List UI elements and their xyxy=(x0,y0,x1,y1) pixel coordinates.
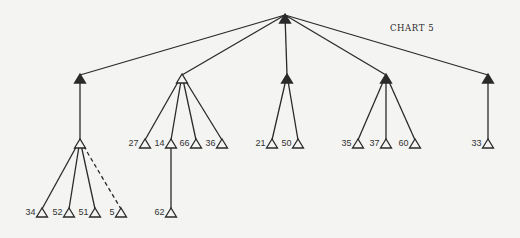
tree-edge xyxy=(182,75,196,140)
open-triangle-node-icon xyxy=(483,139,494,148)
filled-triangle-node-icon xyxy=(282,74,293,83)
filled-triangle-node-icon xyxy=(483,74,494,83)
tree-diagram: CHART 5 34525152714663662215035376033 xyxy=(0,0,520,238)
node-label: 33 xyxy=(462,138,482,148)
tree-edge xyxy=(285,15,386,75)
filled-triangle-node-icon xyxy=(381,74,392,83)
tree-graph xyxy=(0,0,520,238)
node-label: 21 xyxy=(246,138,266,148)
open-triangle-node-icon xyxy=(75,139,86,148)
chart-title: CHART 5 xyxy=(390,23,434,33)
tree-edge xyxy=(358,75,386,140)
tree-edge xyxy=(386,75,415,140)
filled-triangle-node-icon xyxy=(280,14,291,23)
node-label: 34 xyxy=(16,207,36,217)
node-label: 66 xyxy=(170,138,190,148)
node-label: 52 xyxy=(43,207,63,217)
node-label: 37 xyxy=(360,138,380,148)
tree-edge xyxy=(287,75,298,140)
open-triangle-node-icon xyxy=(217,139,228,148)
node-label: 5 xyxy=(95,207,115,217)
open-triangle-node-icon xyxy=(166,208,177,217)
tree-edge xyxy=(80,140,95,209)
open-triangle-node-icon xyxy=(177,74,188,83)
node-label: 50 xyxy=(272,138,292,148)
filled-triangle-node-icon xyxy=(75,74,86,83)
tree-edge xyxy=(285,15,488,75)
node-label: 62 xyxy=(145,207,165,217)
node-label: 35 xyxy=(332,138,352,148)
node-label: 14 xyxy=(145,138,165,148)
open-triangle-node-icon xyxy=(410,139,421,148)
tree-edge xyxy=(80,15,285,75)
tree-edge xyxy=(285,15,287,75)
tree-edge xyxy=(182,75,222,140)
node-label: 36 xyxy=(196,138,216,148)
tree-edge xyxy=(272,75,287,140)
node-label: 51 xyxy=(69,207,89,217)
tree-edge xyxy=(80,140,121,209)
node-label: 27 xyxy=(119,138,139,148)
open-triangle-node-icon xyxy=(293,139,304,148)
tree-edge xyxy=(182,15,285,75)
node-label: 60 xyxy=(389,138,409,148)
open-triangle-node-icon xyxy=(116,208,127,217)
